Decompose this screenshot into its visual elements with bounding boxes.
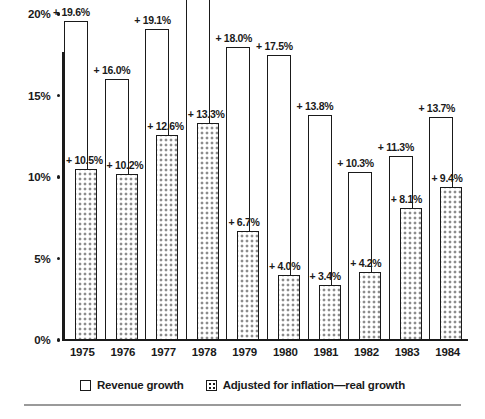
x-axis-label-1978: 1978 <box>184 346 225 358</box>
bar-real-growth-1981 <box>319 285 341 340</box>
bar-label-revenue-growth-1979: + 18.0% <box>215 32 252 44</box>
bar-label-revenue-growth-1982: + 10.3% <box>337 157 374 169</box>
x-axis-label-1984: 1984 <box>427 346 468 358</box>
y-tick-0: 0% <box>0 333 60 347</box>
legend-label-real-growth: Adjusted for inflation—real growth <box>223 379 405 391</box>
bar-label-real-growth-1981: + 3.4% <box>310 270 341 282</box>
bar-label-real-growth-1976: + 10.2% <box>107 159 144 171</box>
bar-label-real-growth-1980: + 4.0% <box>269 260 300 272</box>
bar-label-revenue-growth-1980: + 17.5% <box>256 40 293 52</box>
x-axis-label-1979: 1979 <box>224 346 265 358</box>
bar-label-real-growth-1978: + 13.3% <box>188 108 225 120</box>
bar-real-growth-1984 <box>440 187 462 340</box>
bar-real-growth-1977 <box>156 135 178 340</box>
bar-label-revenue-growth-1981: + 13.8% <box>297 100 334 112</box>
dotted-swatch-icon <box>206 380 217 391</box>
y-tick-marker-icon <box>57 257 61 261</box>
bar-real-growth-1980 <box>278 275 300 340</box>
x-axis-label-1982: 1982 <box>346 346 387 358</box>
y-tick-marker-icon <box>57 175 61 179</box>
bar-real-growth-1978 <box>197 123 219 340</box>
bar-label-real-growth-1975: + 10.5% <box>66 154 103 166</box>
footer-divider <box>24 404 461 406</box>
y-tick-label: 15% <box>28 90 50 102</box>
x-axis-label-1975: 1975 <box>62 346 103 358</box>
y-tick-20: 20% <box>0 7 60 21</box>
bar-real-growth-1975 <box>75 169 97 340</box>
y-tick-label: 10% <box>28 171 50 183</box>
bar-label-real-growth-1979: + 6.7% <box>228 216 259 228</box>
x-axis-label-1981: 1981 <box>306 346 347 358</box>
bar-real-growth-1982 <box>359 272 381 340</box>
bar-label-revenue-growth-1983: + 11.3% <box>378 141 414 153</box>
y-tick-marker-icon <box>57 94 61 98</box>
bar-real-growth-1983 <box>400 208 422 340</box>
bar-real-growth-1979 <box>237 231 259 340</box>
legend-item-real-growth: Adjusted for inflation—real growth <box>206 379 405 391</box>
x-axis-label-1977: 1977 <box>143 346 184 358</box>
bar-label-revenue-growth-1984: + 13.7% <box>418 102 455 114</box>
growth-bar-chart: 0%5%10%15%20% + 19.6%+ 10.5%+ 16.0%+ 10.… <box>0 0 485 419</box>
y-tick-label: 5% <box>34 253 50 265</box>
bar-label-real-growth-1984: + 9.4% <box>431 172 462 184</box>
x-axis-label-1980: 1980 <box>265 346 306 358</box>
bar-label-real-growth-1982: + 4.2% <box>350 257 381 269</box>
chart-legend: Revenue growth Adjusted for inflation—re… <box>0 379 485 391</box>
y-tick-5: 5% <box>0 252 60 266</box>
y-tick-marker-icon <box>57 338 61 342</box>
y-tick-10: 10% <box>0 170 60 184</box>
bar-label-revenue-growth-1977: + 19.1% <box>134 14 171 26</box>
bar-label-revenue-growth-1975: + 19.6% <box>53 6 90 18</box>
outline-swatch-icon <box>80 380 91 391</box>
x-axis-label-1983: 1983 <box>387 346 428 358</box>
bar-label-real-growth-1983: + 8.1% <box>391 193 422 205</box>
bar-real-growth-1976 <box>116 174 138 340</box>
bar-label-revenue-growth-1976: + 16.0% <box>94 64 131 76</box>
legend-label-revenue-growth: Revenue growth <box>97 379 184 391</box>
y-tick-15: 15% <box>0 89 60 103</box>
y-tick-label: 20% <box>28 8 50 20</box>
plot-area: + 19.6%+ 10.5%+ 16.0%+ 10.2%+ 19.1%+ 12.… <box>62 14 468 340</box>
y-tick-label: 0% <box>34 334 50 346</box>
legend-item-revenue-growth: Revenue growth <box>80 379 184 391</box>
x-axis-label-1976: 1976 <box>103 346 144 358</box>
bar-label-real-growth-1977: + 12.6% <box>147 120 184 132</box>
